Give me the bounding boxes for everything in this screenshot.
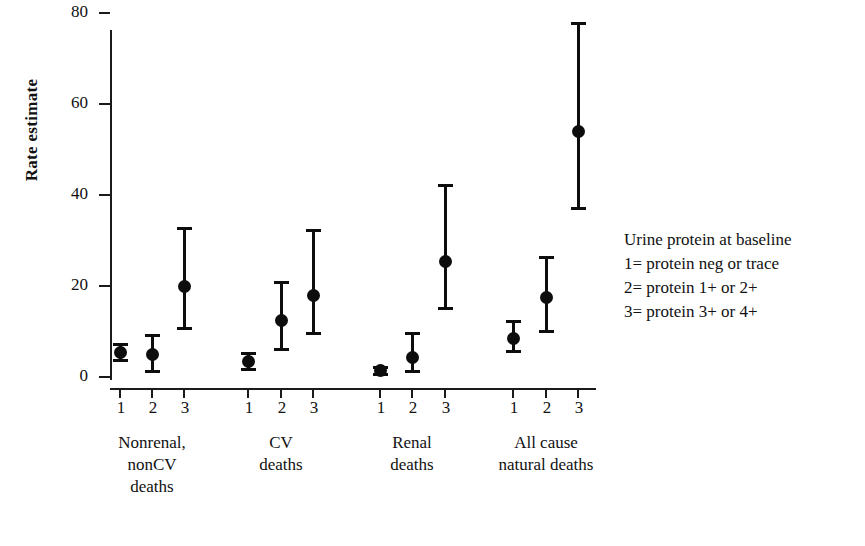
x-tick-label-6: 1 <box>369 398 393 418</box>
error-bar-cap-lower <box>438 307 453 310</box>
x-tick-label-4: 2 <box>270 398 294 418</box>
error-bar-cap-upper <box>177 227 192 230</box>
y-tick-80 <box>99 12 110 14</box>
x-tick-11 <box>577 388 579 398</box>
x-tick-7 <box>411 388 413 398</box>
group-caption-3: All causenatural deaths <box>461 432 631 476</box>
y-axis-line <box>110 30 112 380</box>
x-tick-9 <box>512 388 514 398</box>
y-tick-0 <box>99 376 110 378</box>
data-point-marker <box>572 125 585 138</box>
x-tick-label-2: 3 <box>173 398 197 418</box>
error-bar-cap-lower <box>405 370 420 373</box>
error-bar-line <box>444 184 447 309</box>
x-tick-label-11: 3 <box>567 398 591 418</box>
legend-entry-1: 1= protein neg or trace <box>624 252 792 276</box>
data-point-marker <box>439 255 452 268</box>
y-axis-label: Rate estimate <box>22 40 42 220</box>
data-point-marker <box>540 291 553 304</box>
x-tick-label-1: 2 <box>141 398 165 418</box>
error-bar-cap-lower <box>113 359 128 362</box>
x-tick-label-0: 1 <box>109 398 133 418</box>
error-bar-cap-lower <box>539 330 554 333</box>
y-tick-label-60: 60 <box>48 93 88 113</box>
y-tick-label-40: 40 <box>48 184 88 204</box>
y-tick-40 <box>99 194 110 196</box>
data-point-marker <box>275 314 288 327</box>
x-tick-label-8: 3 <box>434 398 458 418</box>
error-bar-cap-upper <box>274 281 289 284</box>
y-tick-60 <box>99 103 110 105</box>
x-tick-label-10: 2 <box>535 398 559 418</box>
data-point-marker <box>242 355 255 368</box>
data-point-marker <box>114 346 127 359</box>
x-tick-0 <box>119 388 121 398</box>
error-bar-cap-lower <box>306 332 321 335</box>
error-bar-cap-upper <box>145 334 160 337</box>
y-tick-label-0: 0 <box>48 366 88 386</box>
group-caption-line: natural deaths <box>461 454 631 476</box>
legend-entry-2: 2= protein 1+ or 2+ <box>624 276 792 300</box>
legend-entry-3: 3= protein 3+ or 4+ <box>624 300 792 324</box>
error-bar-cap-upper <box>571 22 586 25</box>
y-tick-label-80: 80 <box>48 2 88 22</box>
error-bar-cap-lower <box>241 368 256 371</box>
group-caption-line: deaths <box>67 476 237 498</box>
error-bar-cap-upper <box>405 332 420 335</box>
data-point-marker <box>307 289 320 302</box>
error-bar-cap-lower <box>177 327 192 330</box>
group-caption-line: All cause <box>461 432 631 454</box>
x-tick-5 <box>312 388 314 398</box>
error-bar-cap-lower <box>145 370 160 373</box>
y-tick-label-20: 20 <box>48 275 88 295</box>
x-tick-label-3: 1 <box>237 398 261 418</box>
error-bar-cap-upper <box>506 320 521 323</box>
y-tick-20 <box>99 285 110 287</box>
data-point-marker <box>146 348 159 361</box>
error-bar-line <box>183 227 186 329</box>
x-tick-4 <box>280 388 282 398</box>
error-bar-line <box>312 229 315 334</box>
data-point-marker <box>507 332 520 345</box>
legend-title: Urine protein at baseline <box>624 228 792 252</box>
x-tick-2 <box>183 388 185 398</box>
error-bar-line <box>577 22 580 209</box>
error-bar-cap-upper <box>438 184 453 187</box>
data-point-marker <box>178 280 191 293</box>
x-tick-3 <box>247 388 249 398</box>
data-point-marker <box>406 351 419 364</box>
error-bar-cap-upper <box>539 256 554 259</box>
legend: Urine protein at baseline 1= protein neg… <box>624 228 792 324</box>
x-tick-6 <box>379 388 381 398</box>
error-bar-cap-lower <box>274 348 289 351</box>
error-bar-cap-lower <box>571 207 586 210</box>
x-tick-label-5: 3 <box>302 398 326 418</box>
rate-estimate-chart: Rate estimate 020406080 123123123123 Non… <box>0 0 865 546</box>
x-tick-10 <box>545 388 547 398</box>
x-tick-label-9: 1 <box>502 398 526 418</box>
error-bar-cap-lower <box>506 350 521 353</box>
x-tick-8 <box>444 388 446 398</box>
error-bar-cap-upper <box>306 229 321 232</box>
x-tick-label-7: 2 <box>401 398 425 418</box>
x-tick-1 <box>151 388 153 398</box>
